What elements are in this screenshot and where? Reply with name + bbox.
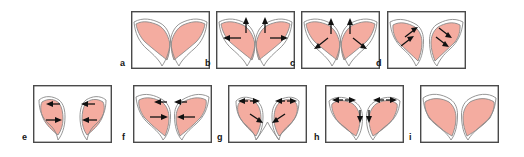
panel-label-e: e — [22, 133, 27, 142]
panel-i — [420, 85, 499, 143]
panel-label-c: c — [290, 59, 295, 68]
panel-label-h: h — [314, 133, 320, 142]
panel-b — [216, 11, 295, 69]
panel-label-f: f — [122, 133, 125, 142]
panel-g — [228, 85, 307, 143]
panel-c — [301, 11, 380, 69]
panel-d — [387, 11, 466, 69]
panel-e — [33, 85, 112, 143]
panel-f — [133, 85, 212, 143]
panel-label-i: i — [409, 133, 412, 142]
panel-label-a: a — [120, 59, 125, 68]
panel-h — [325, 85, 404, 143]
panel-a — [131, 11, 210, 69]
panel-label-b: b — [205, 59, 211, 68]
figure-panel-grid: a — [0, 0, 524, 157]
panel-label-g: g — [217, 133, 223, 142]
panel-label-d: d — [376, 59, 382, 68]
